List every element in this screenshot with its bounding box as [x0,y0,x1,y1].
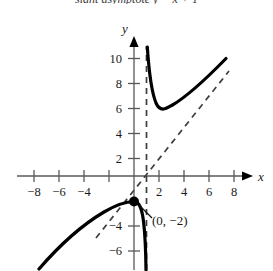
x-tick-label-8: 8 [231,185,237,199]
y-axis-arrowhead [129,36,138,47]
curve-right-branch [147,47,226,109]
y-tick-label-4: 4 [116,127,123,141]
x-tick-label--4: −4 [77,185,91,199]
y-tick-label-10: 10 [110,52,123,66]
figure-root: slant asymptote y = x + 1 [0,0,273,271]
curve-left-branch [39,202,146,271]
x-tick-label-6: 6 [206,185,212,199]
x-axis-arrowhead [242,171,253,180]
x-tick-label-2: 2 [156,185,162,199]
annotation-point-label: (0, −2) [152,213,188,228]
x-axis [17,171,253,180]
y-tick-label-8: 8 [116,77,122,91]
y-axis [129,36,138,270]
y-tick-label--6: −6 [109,244,122,258]
x-tick-label--6: −6 [52,185,65,199]
x-axis-label: x [257,169,264,184]
point-marker-0-neg2 [129,197,139,207]
x-tick-label--8: −8 [27,185,40,199]
y-tick-label--4: −4 [109,219,123,233]
graph-canvas: −8 −6 −4 2 4 6 8 10 8 6 4 2 −4 −6 x y (0… [0,0,273,271]
y-tick-label-6: 6 [116,102,122,116]
x-tick-label-4: 4 [181,185,188,199]
y-axis-label: y [120,21,128,36]
y-tick-label-2: 2 [116,152,122,166]
